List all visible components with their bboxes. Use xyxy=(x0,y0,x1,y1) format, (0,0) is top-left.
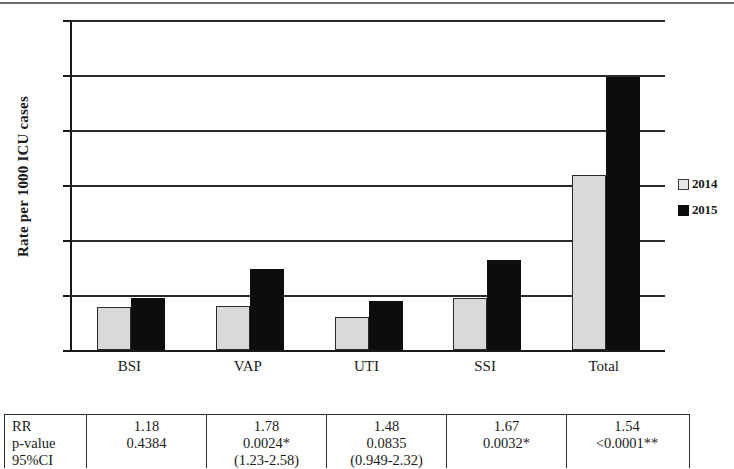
stats-cell-total-pvalue: <0.0001** xyxy=(567,435,687,452)
stats-row-label-rr: RR xyxy=(12,418,86,435)
stats-cell-bsi-pvalue: 0.4384 xyxy=(87,435,206,452)
x-axis-label-uti: UTI xyxy=(307,358,426,375)
y-tick-50 xyxy=(63,295,72,297)
stats-cell-bsi-ci xyxy=(87,452,206,469)
x-axis-label-total: Total xyxy=(544,358,663,375)
bar-chart: Rate per 1000 ICU cases 300 250 200 150 … xyxy=(0,0,734,390)
bar-vap-2015[interactable] xyxy=(250,269,284,350)
bar-total-2015[interactable] xyxy=(606,77,640,350)
stats-cell-bsi-rr: 1.18 xyxy=(87,418,206,435)
stats-column-vap: 1.780.0024*(1.23-2.58) xyxy=(207,415,327,468)
legend: 2014 2015 xyxy=(678,176,717,228)
stats-cell-uti-rr: 1.48 xyxy=(327,418,446,435)
x-axis-label-ssi: SSI xyxy=(426,358,545,375)
stats-column-ssi: 1.670.0032* xyxy=(447,415,567,468)
bar-groups xyxy=(72,20,665,350)
plot-area: BSIVAPUTISSITotal xyxy=(70,20,665,352)
legend-label-2015: 2015 xyxy=(692,202,717,218)
bar-group-total xyxy=(572,20,640,350)
bar-uti-2014[interactable] xyxy=(335,317,369,350)
bar-group-bsi xyxy=(97,20,165,350)
bar-total-2014[interactable] xyxy=(572,175,606,350)
y-tick-200 xyxy=(63,130,72,132)
legend-item-2015[interactable]: 2015 xyxy=(678,202,717,218)
bar-ssi-2015[interactable] xyxy=(487,260,521,350)
y-axis-title: Rate per 1000 ICU cases xyxy=(15,62,32,292)
stats-row-label-pvalue: p-value xyxy=(12,435,86,452)
legend-item-2014[interactable]: 2014 xyxy=(678,176,717,192)
y-tick-300 xyxy=(63,20,72,22)
stats-cell-vap-pvalue: 0.0024* xyxy=(207,435,326,452)
black-square-swatch-icon xyxy=(678,205,689,216)
bar-group-vap xyxy=(216,20,284,350)
bar-bsi-2015[interactable] xyxy=(131,298,165,350)
bar-group-uti xyxy=(335,20,403,350)
bar-bsi-2014[interactable] xyxy=(97,307,131,350)
x-axis-label-vap: VAP xyxy=(189,358,308,375)
y-tick-0 xyxy=(63,350,72,352)
y-tick-150 xyxy=(63,185,72,187)
stats-row-label-95ci: 95%CI xyxy=(12,452,86,469)
light-square-swatch-icon xyxy=(678,179,689,190)
bar-vap-2014[interactable] xyxy=(216,306,250,350)
stats-cell-ssi-pvalue: 0.0032* xyxy=(447,435,566,452)
bar-uti-2015[interactable] xyxy=(369,301,403,351)
stats-cell-ssi-ci xyxy=(447,452,566,469)
x-axis-line xyxy=(70,350,665,352)
stats-row-labels: RRp-value95%CI xyxy=(5,415,87,468)
stats-cell-uti-ci: (0.949-2.32) xyxy=(327,452,446,469)
stats-cell-total-rr: 1.54 xyxy=(567,418,687,435)
legend-label-2014: 2014 xyxy=(692,176,717,192)
stats-cell-vap-rr: 1.78 xyxy=(207,418,326,435)
stats-cell-uti-pvalue: 0.0835 xyxy=(327,435,446,452)
stats-column-total: 1.54<0.0001** xyxy=(567,415,687,468)
stats-cell-total-ci xyxy=(567,452,687,469)
stats-column-uti: 1.480.0835(0.949-2.32) xyxy=(327,415,447,468)
y-tick-100 xyxy=(63,240,72,242)
stats-cell-vap-ci: (1.23-2.58) xyxy=(207,452,326,469)
y-tick-250 xyxy=(63,75,72,77)
stats-column-bsi: 1.180.4384 xyxy=(87,415,207,468)
stats-cell-ssi-rr: 1.67 xyxy=(447,418,566,435)
bar-ssi-2014[interactable] xyxy=(453,298,487,350)
x-axis-label-bsi: BSI xyxy=(70,358,189,375)
bar-group-ssi xyxy=(453,20,521,350)
stats-table: RRp-value95%CI1.180.4384 1.780.0024*(1.2… xyxy=(4,414,690,468)
